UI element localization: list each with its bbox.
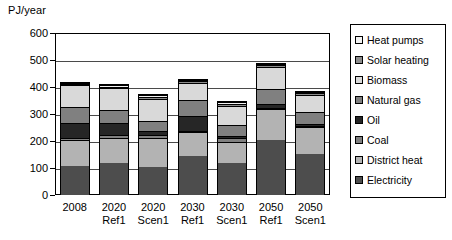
- bar-segment-biomass: [257, 67, 285, 89]
- bar-segment-district-heat: [257, 109, 285, 140]
- legend-item-label: Heat pumps: [367, 35, 424, 46]
- bar-segment-natural-gas: [100, 110, 128, 123]
- legend-swatch-icon: [355, 56, 363, 64]
- bar-segment-biomass: [100, 88, 128, 110]
- legend-item-label: District heat: [367, 155, 422, 166]
- legend-item-oil[interactable]: Oil: [355, 110, 441, 130]
- x-axis-tick-label: 2050Scen1: [285, 201, 335, 227]
- bar-2020-scen1: [138, 94, 168, 195]
- bar-segment-oil: [61, 123, 89, 138]
- y-axis-title: PJ/year: [8, 4, 46, 16]
- legend-item-label: Biomass: [367, 75, 407, 86]
- legend-swatch-icon: [355, 116, 363, 124]
- x-label-year: 2030: [220, 201, 244, 213]
- y-axis-tick-label: 200: [8, 135, 48, 147]
- bar-segment-oil: [100, 123, 128, 135]
- bar-segment-oil: [179, 116, 207, 131]
- y-axis-tick-label: 300: [8, 108, 48, 120]
- bar-segment-biomass: [296, 95, 324, 112]
- bar-segment-natural-gas: [296, 112, 324, 124]
- x-label-year: 2020: [102, 201, 126, 213]
- bar-segment-district-heat: [100, 138, 128, 163]
- legend-swatch-icon: [355, 36, 363, 44]
- x-label-year: 2008: [62, 201, 86, 213]
- bar-segment-natural-gas: [218, 125, 246, 136]
- legend-item-solar-heating[interactable]: Solar heating: [355, 50, 441, 70]
- y-axis-tick-label: 100: [8, 162, 48, 174]
- bar-segment-electricity: [218, 163, 246, 195]
- y-axis-tick-label: 500: [8, 54, 48, 66]
- bar-segment-biomass: [218, 106, 246, 125]
- y-axis-tick-label: 0: [8, 189, 48, 201]
- legend-item-label: Solar heating: [367, 55, 429, 66]
- legend-swatch-icon: [355, 136, 363, 144]
- bar-segment-electricity: [179, 156, 207, 195]
- x-label-year: 2050: [298, 201, 322, 213]
- bar-2050-ref1: [256, 63, 286, 195]
- legend-swatch-icon: [355, 156, 363, 164]
- bar-segment-district-heat: [61, 140, 89, 165]
- x-label-year: 2050: [259, 201, 283, 213]
- bar-segment-natural-gas: [179, 100, 207, 116]
- bar-segment-natural-gas: [61, 107, 89, 123]
- legend-item-label: Oil: [367, 115, 380, 126]
- bar-2030-scen1: [217, 101, 247, 196]
- legend-item-coal[interactable]: Coal: [355, 130, 441, 150]
- legend-item-district-heat[interactable]: District heat: [355, 150, 441, 170]
- y-axis-tick-label: 600: [8, 27, 48, 39]
- bar-segment-biomass: [61, 85, 89, 107]
- bar-segment-electricity: [296, 154, 324, 195]
- y-axis-tick-mark: [50, 195, 55, 196]
- bar-segment-district-heat: [218, 142, 246, 163]
- legend-swatch-icon: [355, 176, 363, 184]
- bar-2050-scen1: [295, 91, 325, 195]
- bar-segment-electricity: [61, 166, 89, 195]
- bar-segment-biomass: [179, 83, 207, 100]
- y-axis-tick-label: 400: [8, 81, 48, 93]
- legend-swatch-icon: [355, 96, 363, 104]
- legend-item-label: Natural gas: [367, 95, 421, 106]
- bar-2020-ref1: [99, 84, 129, 195]
- bar-segment-biomass: [139, 99, 167, 120]
- legend-item-label: Coal: [367, 135, 389, 146]
- bar-segment-electricity: [139, 167, 167, 195]
- bar-segment-natural-gas: [257, 89, 285, 104]
- legend-item-electricity[interactable]: Electricity: [355, 170, 441, 190]
- bar-2008: [60, 82, 90, 195]
- bar-series-layer: [55, 33, 330, 195]
- legend-item-biomass[interactable]: Biomass: [355, 70, 441, 90]
- bar-segment-district-heat: [139, 138, 167, 167]
- bar-segment-electricity: [100, 163, 128, 195]
- legend-swatch-icon: [355, 76, 363, 84]
- legend-item-label: Electricity: [367, 175, 412, 186]
- legend-item-natural-gas[interactable]: Natural gas: [355, 90, 441, 110]
- x-axis: 20082020Ref12020Scen12030Ref12030Scen120…: [55, 197, 330, 239]
- bar-segment-electricity: [257, 140, 285, 195]
- chart-container: PJ/year 0100200300400500600 20082020Ref1…: [0, 0, 452, 240]
- x-label-scenario: Scen1: [285, 214, 335, 227]
- x-label-year: 2030: [180, 201, 204, 213]
- bar-2030-ref1: [178, 79, 208, 195]
- bar-segment-district-heat: [296, 127, 324, 154]
- x-label-year: 2020: [141, 201, 165, 213]
- bar-segment-district-heat: [179, 132, 207, 156]
- legend-item-heat-pumps[interactable]: Heat pumps: [355, 30, 441, 50]
- bar-segment-natural-gas: [139, 121, 167, 132]
- chart-legend: Heat pumpsSolar heatingBiomassNatural ga…: [350, 24, 446, 198]
